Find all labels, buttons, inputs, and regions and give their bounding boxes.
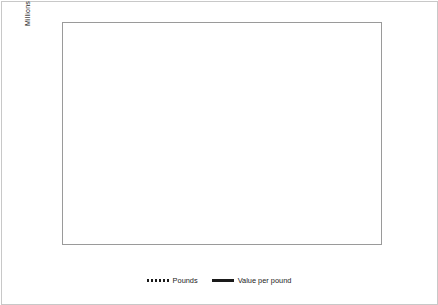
chart-container: Millions Pounds Value per pound (0, 0, 438, 305)
legend-swatch-dotted-icon (147, 279, 169, 282)
legend-swatch-solid-icon (212, 279, 234, 282)
series-layer (0, 0, 438, 305)
legend-item-value-per-pound: Value per pound (212, 276, 292, 285)
legend-item-pounds: Pounds (147, 276, 198, 285)
chart-legend: Pounds Value per pound (0, 276, 438, 285)
legend-label-value-per-pound: Value per pound (238, 276, 292, 285)
legend-label-pounds: Pounds (173, 276, 198, 285)
